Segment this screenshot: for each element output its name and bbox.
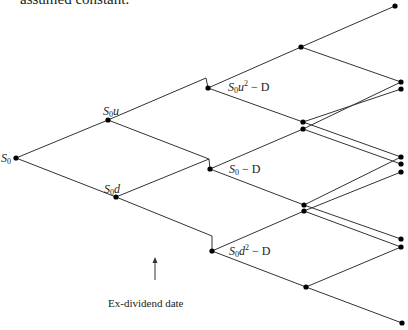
label-s0-minus-d: S0 − D [229,163,260,177]
tree-node-n3f [303,284,308,289]
label-s0d2-minus-d: S0d2 − D [229,244,270,259]
tree-node-n3e [301,208,306,213]
label-s0u2-minus-d: S0u2 − D [228,80,269,95]
tree-edge [16,120,108,158]
tree-node-n4a [392,3,397,8]
tree-edge [304,157,401,205]
label-s0u: S0u [103,105,119,119]
tree-edge [301,47,401,82]
tree-nodes [13,3,404,325]
label-s0: S0 [1,152,11,166]
binomial-tree-diagram [0,0,408,330]
tree-edge [303,122,401,157]
tree-edge [304,211,401,247]
tree-node-n3b [300,119,305,124]
tree-edge [303,129,401,164]
tree-node-s0-d [207,166,212,171]
ex-dividend-arrow-icon [153,257,158,280]
tree-node-n3d [301,202,306,207]
label-s0d: S0d [104,183,120,197]
tree-edge [116,197,212,251]
tree-edge [303,82,401,129]
tree-node-n4b [398,79,403,84]
tree-edge [16,158,116,197]
tree-node-s0u2-d [205,85,210,90]
tree-node-n4h [398,244,403,249]
tree-edges [16,6,402,323]
tree-edge [304,172,401,211]
tree-edge [306,247,401,287]
tree-node-n4f [398,169,403,174]
tree-node-n4c [398,86,403,91]
tree-edge [108,78,208,120]
tree-node-n4d [398,154,403,159]
tree-edge [304,205,401,239]
tree-edge [108,120,210,169]
tree-node-n4i [399,320,404,325]
tree-node-s0 [13,155,18,160]
tree-node-n4e [398,161,403,166]
ex-dividend-label: Ex-dividend date [108,297,183,309]
tree-node-n4g [398,236,403,241]
tree-edge [301,6,395,47]
tree-edge [306,287,402,323]
tree-node-n3a [298,44,303,49]
tree-edge [116,159,209,197]
tree-node-s0d2-d [209,248,214,253]
tree-node-n3c [300,126,305,131]
